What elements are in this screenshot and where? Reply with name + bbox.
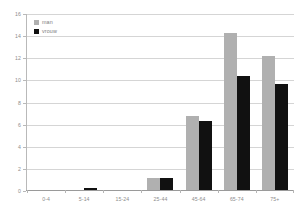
bar-groups bbox=[27, 14, 294, 190]
y-axis-tick-label: 16 bbox=[15, 11, 21, 17]
y-axis-tick-label: 10 bbox=[15, 77, 21, 83]
x-axis-tick-labels: 0-45-1415-2425-4445-6465-7475+ bbox=[27, 196, 294, 202]
y-axis-tick-label: 8 bbox=[18, 100, 21, 106]
bar-group bbox=[218, 14, 256, 190]
x-axis-tick-label: 5-14 bbox=[65, 196, 103, 202]
bar-man bbox=[186, 116, 199, 190]
x-axis-tick-mark bbox=[65, 190, 66, 193]
y-axis-tick-mark bbox=[23, 191, 26, 192]
legend-label-man: man bbox=[42, 19, 53, 25]
y-axis-tick-label: 12 bbox=[15, 55, 21, 61]
x-axis-tick-mark bbox=[218, 190, 219, 193]
y-axis-tick-mark bbox=[23, 103, 26, 104]
y-axis-tick-label: 0 bbox=[18, 188, 21, 194]
x-axis-tick-mark bbox=[293, 190, 294, 193]
bar-man bbox=[147, 178, 160, 190]
legend-label-vrouw: vrouw bbox=[42, 28, 57, 34]
x-axis-tick-label: 45-64 bbox=[180, 196, 218, 202]
x-axis-tick-mark bbox=[27, 190, 28, 193]
x-axis-tick-label: 75+ bbox=[256, 196, 294, 202]
bar-chart: 0246810121416 0-45-1415-2425-4445-6465-7… bbox=[0, 0, 301, 220]
bar-group bbox=[180, 14, 218, 190]
x-axis-tick-label: 65-74 bbox=[218, 196, 256, 202]
bar-group bbox=[103, 14, 141, 190]
bar-group bbox=[256, 14, 294, 190]
bar-group bbox=[27, 14, 65, 190]
y-axis-tick-mark bbox=[23, 147, 26, 148]
y-axis-tick-mark bbox=[23, 80, 26, 81]
legend-item-man: man bbox=[34, 19, 57, 25]
x-axis-tick-mark bbox=[256, 190, 257, 193]
y-axis-tick-label: 4 bbox=[18, 144, 21, 150]
x-axis bbox=[26, 190, 294, 191]
bar-vrouw bbox=[160, 178, 173, 190]
y-axis-tick-mark bbox=[23, 14, 26, 15]
legend-swatch-man-icon bbox=[34, 20, 39, 25]
y-axis-tick-label: 14 bbox=[15, 33, 21, 39]
y-axis-tick-mark bbox=[23, 169, 26, 170]
legend: man vrouw bbox=[34, 19, 57, 34]
x-axis-tick-mark bbox=[141, 190, 142, 193]
bar-vrouw bbox=[237, 76, 250, 190]
x-axis-tick-label: 25-44 bbox=[141, 196, 179, 202]
y-axis-tick-label: 2 bbox=[18, 166, 21, 172]
bar-group bbox=[141, 14, 179, 190]
bar-vrouw bbox=[84, 188, 97, 190]
bar-vrouw bbox=[275, 84, 288, 190]
legend-swatch-vrouw-icon bbox=[34, 29, 39, 34]
y-axis-tick-mark bbox=[23, 125, 26, 126]
y-axis-tick-label: 6 bbox=[18, 122, 21, 128]
x-axis-tick-label: 0-4 bbox=[27, 196, 65, 202]
x-axis-tick-mark bbox=[103, 190, 104, 193]
plot-area: 0246810121416 bbox=[26, 14, 294, 191]
bar-man bbox=[224, 33, 237, 190]
bar-man bbox=[262, 56, 275, 190]
x-axis-tick-label: 15-24 bbox=[103, 196, 141, 202]
bar-vrouw bbox=[199, 121, 212, 190]
x-axis-tick-mark bbox=[180, 190, 181, 193]
y-axis-tick-mark bbox=[23, 58, 26, 59]
y-axis-tick-mark bbox=[23, 36, 26, 37]
bar-group bbox=[65, 14, 103, 190]
legend-item-vrouw: vrouw bbox=[34, 28, 57, 34]
